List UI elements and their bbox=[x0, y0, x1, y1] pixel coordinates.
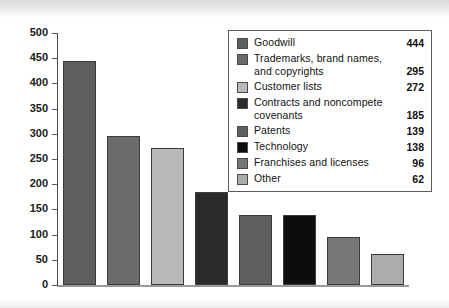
legend-item-label: Technology bbox=[254, 140, 398, 153]
legend-item: Other62 bbox=[237, 172, 424, 186]
legend-item: Franchises and licenses96 bbox=[237, 156, 424, 170]
y-axis-tick: 0 bbox=[0, 285, 449, 286]
legend-item: Goodwill444 bbox=[237, 36, 424, 50]
legend-item-label: Franchises and licenses bbox=[254, 156, 398, 169]
bar bbox=[371, 254, 404, 285]
y-axis-tick-label: 300 bbox=[8, 128, 48, 139]
chart-legend: Goodwill444Trademarks, brand names,and c… bbox=[228, 30, 432, 192]
legend-color-swatch-icon bbox=[237, 82, 248, 93]
legend-color-swatch-icon bbox=[237, 126, 248, 137]
legend-item-label: Trademarks, brand names,and copyrights bbox=[254, 52, 398, 78]
legend-color-swatch-icon bbox=[237, 158, 248, 169]
plot-area: 500450400350300250200150100500 Goodwill4… bbox=[0, 0, 449, 308]
legend-item-label: Patents bbox=[254, 124, 398, 137]
legend-item-value: 295 bbox=[398, 65, 424, 78]
legend-item: Contracts and noncompetecovenants185 bbox=[237, 96, 424, 122]
y-axis-tick-label: 50 bbox=[8, 254, 48, 265]
y-axis-tick-label: 100 bbox=[8, 229, 48, 240]
legend-color-swatch-icon bbox=[237, 174, 248, 185]
bar bbox=[151, 148, 184, 285]
legend-color-swatch-icon bbox=[237, 98, 248, 109]
y-axis-tick-label: 150 bbox=[8, 203, 48, 214]
legend-item-label: Other bbox=[254, 172, 398, 185]
legend-item: Technology138 bbox=[237, 140, 424, 154]
legend-item-label: Contracts and noncompetecovenants bbox=[254, 96, 398, 122]
legend-color-swatch-icon bbox=[237, 142, 248, 153]
bar bbox=[63, 61, 96, 285]
y-axis-tick-label: 250 bbox=[8, 153, 48, 164]
legend-item-label: Goodwill bbox=[254, 36, 398, 49]
y-axis-tick-label: 500 bbox=[8, 27, 48, 38]
y-axis-tick-label: 200 bbox=[8, 178, 48, 189]
legend-item-label: Customer lists bbox=[254, 80, 398, 93]
legend-rows: Goodwill444Trademarks, brand names,and c… bbox=[237, 36, 424, 186]
legend-item-value: 185 bbox=[398, 109, 424, 122]
y-axis-tick-label: 400 bbox=[8, 77, 48, 88]
bar-chart-figure: 500450400350300250200150100500 Goodwill4… bbox=[0, 0, 449, 308]
bar bbox=[239, 215, 272, 285]
y-axis-tick-label: 0 bbox=[8, 279, 48, 290]
legend-item-value: 139 bbox=[398, 125, 424, 138]
legend-item-value: 96 bbox=[398, 157, 424, 170]
legend-item-value: 62 bbox=[398, 173, 424, 186]
legend-item: Customer lists272 bbox=[237, 80, 424, 94]
y-axis-tick-label: 450 bbox=[8, 52, 48, 63]
legend-item: Trademarks, brand names,and copyrights29… bbox=[237, 52, 424, 78]
y-axis-tick-mark bbox=[52, 285, 58, 286]
y-axis-tick-label: 350 bbox=[8, 103, 48, 114]
bar bbox=[107, 136, 140, 285]
bar bbox=[195, 192, 228, 285]
bar bbox=[283, 215, 316, 285]
legend-item-value: 272 bbox=[398, 81, 424, 94]
bar bbox=[327, 237, 360, 285]
legend-item: Patents139 bbox=[237, 124, 424, 138]
legend-item-value: 444 bbox=[398, 37, 424, 50]
legend-color-swatch-icon bbox=[237, 38, 248, 49]
legend-color-swatch-icon bbox=[237, 54, 248, 65]
legend-item-value: 138 bbox=[398, 141, 424, 154]
